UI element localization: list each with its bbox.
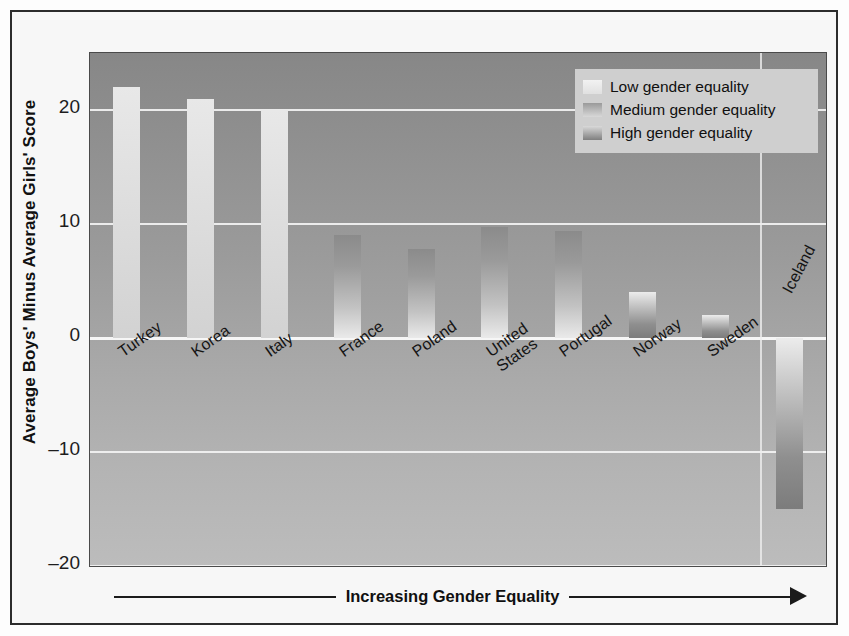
x-axis-caption-text: Increasing Gender Equality <box>336 587 570 606</box>
y-axis-label: Average Boys' Minus Average Girls' Score <box>20 32 40 512</box>
bar-portugal <box>555 231 582 338</box>
legend-label-high: High gender equality <box>610 124 752 142</box>
bar-korea <box>187 99 214 338</box>
caption-rule-left <box>114 596 336 598</box>
legend-swatch-high-icon <box>583 126 602 140</box>
bar-united-states <box>481 227 508 338</box>
figure-frame: Low gender equality Medium gender equali… <box>10 10 838 625</box>
bar-france <box>334 235 361 338</box>
x-axis-caption: Increasing Gender Equality <box>89 579 829 613</box>
gridline-neg10 <box>90 451 826 453</box>
bar-poland <box>408 249 435 338</box>
legend-item-medium: Medium gender equality <box>583 99 810 120</box>
bar-italy <box>261 110 288 338</box>
category-label-iceland: Iceland <box>779 242 819 296</box>
figure-root: Low gender equality Medium gender equali… <box>0 0 849 636</box>
legend-item-high: High gender equality <box>583 122 810 143</box>
bar-iceland <box>776 338 803 509</box>
y-tick-label-neg20: –20 <box>12 552 80 574</box>
legend-label-medium: Medium gender equality <box>610 101 775 119</box>
plot-area: Low gender equality Medium gender equali… <box>89 52 827 567</box>
bar-turkey <box>113 87 140 338</box>
legend-item-low: Low gender equality <box>583 76 810 97</box>
gridline-neg20 <box>90 565 826 567</box>
legend-swatch-low-icon <box>583 80 602 94</box>
legend-swatch-medium-icon <box>583 103 602 117</box>
caption-rule-right <box>569 596 791 598</box>
category-label-line: Iceland <box>779 242 818 296</box>
legend-label-low: Low gender equality <box>610 78 749 96</box>
arrow-right-icon <box>790 587 807 605</box>
legend: Low gender equality Medium gender equali… <box>575 69 818 153</box>
